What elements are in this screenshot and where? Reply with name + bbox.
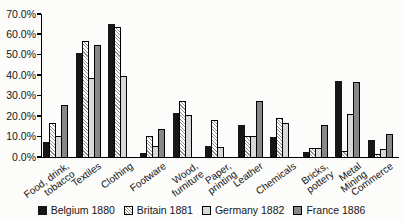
chart: Belgium 1880 Britain 1881 Germany 1882 F… <box>0 0 403 222</box>
bar-france-1886 <box>386 134 393 158</box>
bar-belgium-1880 <box>335 81 342 157</box>
bar-france-1886 <box>94 45 101 157</box>
bar-germany-1882 <box>217 147 224 157</box>
bar-france-1886 <box>256 101 263 157</box>
y-axis-tick <box>37 13 41 15</box>
y-axis-tick <box>37 74 41 76</box>
y-axis-tick-label: 20.0% <box>0 111 36 122</box>
y-axis-tick <box>37 54 41 56</box>
y-axis-tick <box>37 115 41 117</box>
bar-france-1886 <box>321 125 328 157</box>
y-axis-tick-label: 10.0% <box>0 131 36 142</box>
y-axis-tick-label: 30.0% <box>0 90 36 101</box>
y-axis-tick <box>37 136 41 138</box>
y-axis-tick-label: 60.0% <box>0 29 36 40</box>
bar-france-1886 <box>353 82 360 157</box>
y-axis-tick <box>37 33 41 35</box>
y-axis-tick <box>37 156 41 158</box>
y-axis-tick-label: 70.0% <box>0 9 36 20</box>
bar-germany-1882 <box>185 115 192 157</box>
bar-germany-1882 <box>282 123 289 157</box>
y-axis-tick-label: 50.0% <box>0 49 36 60</box>
y-axis-tick-label: 40.0% <box>0 70 36 81</box>
plot-area <box>41 14 399 158</box>
y-axis-tick <box>37 95 41 97</box>
bar-france-1886 <box>61 105 68 157</box>
bar-france-1886 <box>158 129 165 157</box>
y-axis-tick-label: 0.0% <box>0 152 36 163</box>
bar-germany-1882 <box>120 76 127 157</box>
